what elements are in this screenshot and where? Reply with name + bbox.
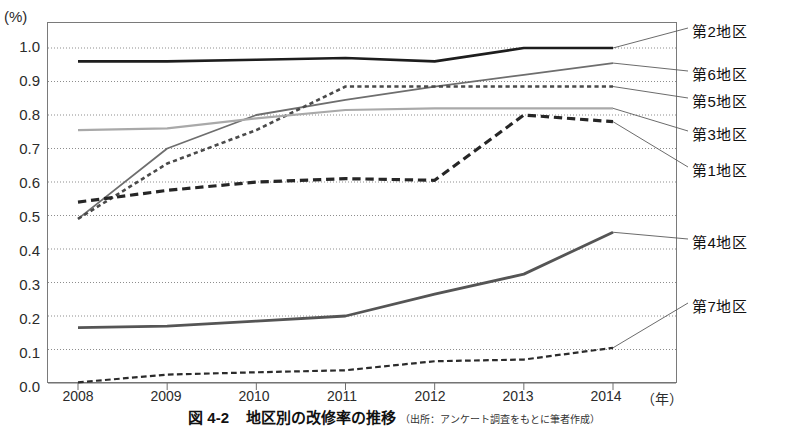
leader-line-第5地区 [613,87,688,98]
legend-item-0[interactable]: 第2地区 [692,20,747,41]
leader-line-第1地区 [613,122,688,167]
series-line-第4地区 [78,232,613,327]
leader-line-第3地区 [613,108,688,131]
leader-line-第4地区 [613,232,688,239]
legend-item-5[interactable]: 第4地区 [692,231,747,252]
figure-title: 地区別の改修率の推移 [246,409,396,426]
series-line-第5地区 [78,87,613,219]
legend-leader-lines [613,28,688,348]
legend-item-2[interactable]: 第5地区 [692,90,747,111]
series-line-第2地区 [78,48,613,61]
legend-item-1[interactable]: 第6地区 [692,63,747,84]
legend-item-4[interactable]: 第1地区 [692,159,747,180]
series-line-第7地区 [78,348,613,383]
x-axis-tick-marks [78,383,613,390]
figure-caption: 図 4-2 地区別の改修率の推移 （出所：アンケート調査をもとに筆者作成） [0,406,788,427]
series-line-第3地区 [78,108,613,130]
legend-item-3[interactable]: 第3地区 [692,123,747,144]
chart-page: (%) 1.0 0.9 0.8 0.7 0.6 0.5 0.4 0.3 0.2 … [0,0,788,428]
leader-line-第2地区 [613,28,688,48]
figure-source: （出所：アンケート調査をもとに筆者作成） [400,414,600,425]
leader-line-第7地区 [613,303,688,348]
legend-item-6[interactable]: 第7地区 [692,295,747,316]
chart-canvas [0,0,788,428]
figure-number: 図 4-2 [188,409,229,426]
leader-line-第6地区 [613,63,688,71]
